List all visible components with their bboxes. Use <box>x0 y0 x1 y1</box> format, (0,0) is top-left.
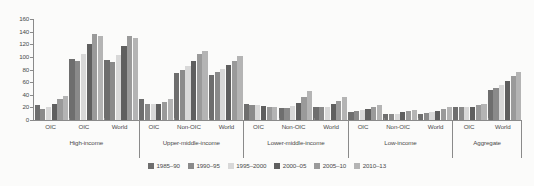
legend-swatch-icon <box>314 163 320 169</box>
bar <box>493 88 498 120</box>
legend-item[interactable]: 1985–90 <box>148 163 180 169</box>
y-axis-tick-label: 120 <box>19 41 29 47</box>
x-axis-tickmark <box>104 118 105 121</box>
bar <box>69 59 74 120</box>
bar <box>307 91 312 120</box>
legend-label: 2010–13 <box>363 163 386 169</box>
legend-label: 1985–90 <box>156 163 179 169</box>
subgroup-label: World <box>323 123 339 130</box>
legend-label: 1990–95 <box>196 163 219 169</box>
y-axis-tickmark <box>30 44 33 45</box>
subgroup-label: OIC <box>464 123 475 130</box>
bar <box>453 107 458 120</box>
bar <box>406 111 411 120</box>
legend-label: 1995–2000 <box>236 163 266 169</box>
bar <box>87 44 92 120</box>
bar <box>151 104 156 120</box>
bar-subgroup <box>348 19 382 120</box>
y-axis-tick-label: 60 <box>22 79 29 85</box>
bar <box>46 107 51 120</box>
bar <box>81 54 86 120</box>
bar <box>104 60 109 120</box>
category-group: OICOICWorldHigh-income <box>34 120 139 158</box>
bar <box>261 106 266 120</box>
bar <box>371 107 376 120</box>
bars-area <box>34 19 522 120</box>
bar-subgroup <box>35 19 69 120</box>
bar <box>441 109 446 120</box>
bar <box>202 51 207 120</box>
bar <box>284 108 289 120</box>
bar <box>267 107 272 120</box>
legend-swatch-icon <box>274 163 280 169</box>
bar <box>98 36 103 120</box>
y-axis-tickmark <box>30 95 33 96</box>
bar-subgroup <box>104 19 138 120</box>
bar <box>35 105 40 120</box>
legend-item[interactable]: 2005–10 <box>314 163 346 169</box>
subgroup-label: OIC <box>148 123 159 130</box>
category-group-label: Lower-middle-income <box>244 139 348 146</box>
subgroup-label: OIC <box>79 123 90 130</box>
bar <box>342 97 347 120</box>
y-axis-tickmark <box>30 120 33 121</box>
subgroup-label-row: OICNon-OICWorld <box>349 123 453 135</box>
y-axis-tickmark <box>30 70 33 71</box>
bar <box>424 113 429 120</box>
category-group-label: Aggregate <box>453 139 521 146</box>
bar <box>360 110 365 120</box>
y-axis-tickmark <box>30 57 33 58</box>
bar <box>40 109 45 120</box>
subgroup-label: OIC <box>253 123 264 130</box>
bar <box>488 90 493 120</box>
subgroup-label: OIC <box>45 123 56 130</box>
bar <box>336 101 341 120</box>
bar-chart: 020406080100120140160 OICOICWorldHigh-in… <box>0 0 534 186</box>
bar <box>464 107 469 120</box>
legend-item[interactable]: 1995–2000 <box>228 163 267 169</box>
bar-subgroup <box>209 19 243 120</box>
bar <box>139 99 144 120</box>
subgroup-label: OIC <box>358 123 369 130</box>
bar <box>272 107 277 120</box>
bar <box>237 56 242 120</box>
legend-swatch-icon <box>188 163 194 169</box>
bar-subgroup <box>488 19 522 120</box>
legend-item[interactable]: 1990–95 <box>188 163 220 169</box>
bar <box>429 112 434 120</box>
x-axis-tickmark <box>279 118 280 121</box>
bar <box>232 61 237 120</box>
bar <box>377 105 382 120</box>
bar <box>174 73 179 120</box>
bar-group-lower-middle-income <box>243 19 348 120</box>
bar <box>92 34 97 120</box>
subgroup-label: World <box>219 123 235 130</box>
y-axis-tick-label: 20 <box>22 104 29 110</box>
subgroup-label: World <box>428 123 444 130</box>
category-group: OICNon-OICWorldLower-middle-income <box>243 120 348 158</box>
bar-subgroup <box>69 19 103 120</box>
bar-subgroup <box>139 19 173 120</box>
bar <box>244 104 249 120</box>
legend-item[interactable]: 2000–05 <box>274 163 306 169</box>
x-axis-tickmark <box>69 118 70 121</box>
y-axis-tick-label: 140 <box>19 29 29 35</box>
subgroup-label-row: OICNon-OICWorld <box>140 123 244 135</box>
bar-subgroup <box>418 19 452 120</box>
bar <box>470 107 475 120</box>
bar <box>476 105 481 120</box>
y-axis-tickmark <box>30 107 33 108</box>
legend-item[interactable]: 2010–13 <box>354 163 386 169</box>
x-axis-tickmark <box>209 118 210 121</box>
bar <box>75 61 80 120</box>
y-axis-tick-label: 160 <box>19 16 29 22</box>
x-axis-tickmark <box>488 118 489 121</box>
subgroup-label: Non-OIC <box>386 123 410 130</box>
bar <box>197 54 202 120</box>
bar-subgroup <box>313 19 347 120</box>
bar <box>121 46 126 120</box>
bar <box>57 99 62 120</box>
bar <box>145 104 150 120</box>
y-axis-tick-label: 80 <box>22 66 29 72</box>
bar <box>209 75 214 120</box>
